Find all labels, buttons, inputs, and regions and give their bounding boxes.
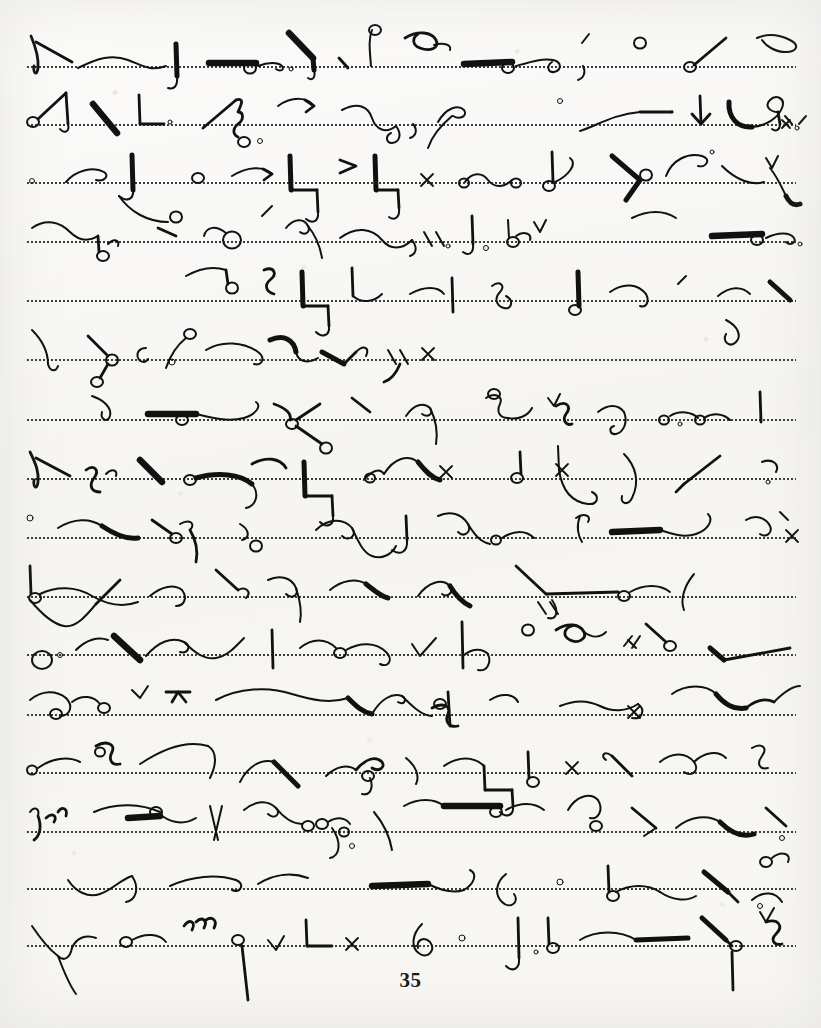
- ruled-line-14: [26, 831, 796, 833]
- ruled-line-7: [26, 419, 796, 421]
- ruled-line-6: [26, 359, 796, 361]
- shorthand-line-11: [32, 622, 790, 670]
- ruled-line-2: [26, 124, 796, 126]
- ruled-line-11: [26, 654, 796, 656]
- shorthand-line-13: [27, 743, 768, 815]
- shorthand-line-4: [32, 206, 802, 261]
- shorthand-line-12: [30, 686, 800, 726]
- ruled-line-12: [26, 714, 796, 716]
- ruled-line-16: [26, 945, 796, 947]
- shorthand-line-7: [92, 389, 761, 454]
- ruled-line-10: [26, 596, 796, 598]
- ruled-line-9: [26, 537, 796, 539]
- ruled-line-3: [26, 182, 796, 184]
- ruled-line-13: [26, 772, 796, 774]
- ruled-line-4: [26, 241, 796, 243]
- page-number: 35: [0, 968, 821, 993]
- ruled-line-5: [26, 300, 796, 302]
- scan-vignette: [0, 0, 821, 1028]
- paper-grain-texture: [0, 0, 821, 1028]
- shorthand-page: 35: [0, 0, 821, 1028]
- shorthand-line-3: [30, 150, 801, 223]
- shorthand-line-2: [27, 93, 806, 148]
- shorthand-line-1: [31, 25, 796, 89]
- shorthand-line-8: [30, 446, 777, 525]
- shorthand-line-6: [32, 329, 434, 387]
- ruled-line-8: [26, 478, 796, 480]
- ruled-line-15: [26, 888, 796, 890]
- ruled-line-1: [26, 66, 796, 68]
- shorthand-line-5: [186, 268, 790, 344]
- shorthand-ink-layer: [0, 0, 821, 1028]
